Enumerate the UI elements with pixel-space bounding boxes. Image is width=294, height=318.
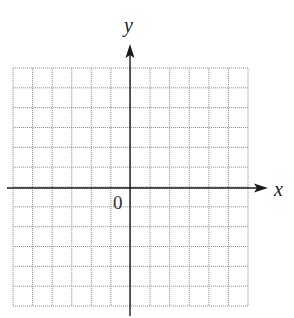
coordinate-plane: x y 0 xyxy=(0,0,294,318)
origin-label: 0 xyxy=(113,192,123,213)
y-axis-label: y xyxy=(122,14,133,37)
x-axis-label: x xyxy=(273,178,283,200)
